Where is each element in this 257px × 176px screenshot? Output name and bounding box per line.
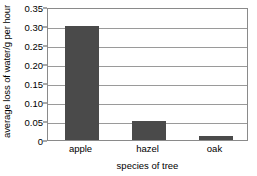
y-tick-label: 0.25 xyxy=(25,41,44,52)
y-axis-ticks: 0.350.300.250.200.150.100.050 xyxy=(14,0,47,145)
y-tick-label: 0.15 xyxy=(25,79,44,90)
bar-chart-figure: average loss of water/g per hour 0.350.3… xyxy=(0,0,257,176)
y-tick-label: 0.30 xyxy=(25,22,44,33)
y-tick-label: 0.05 xyxy=(25,117,44,128)
bar xyxy=(199,136,233,140)
y-axis-title-text: average loss of water/g per hour xyxy=(2,4,13,137)
y-tick-label: 0.20 xyxy=(25,60,44,71)
y-axis-title: average loss of water/g per hour xyxy=(0,0,14,142)
y-tick-label: 0.35 xyxy=(25,3,44,14)
y-tick-label: 0.10 xyxy=(25,98,44,109)
x-tick-label: apple xyxy=(69,143,92,154)
x-axis-title: species of tree xyxy=(47,160,248,171)
plot-area xyxy=(47,8,248,141)
bar xyxy=(65,26,99,140)
x-tick-label: hazel xyxy=(136,143,159,154)
x-tick-label: oak xyxy=(207,143,222,154)
bar xyxy=(132,121,166,140)
x-axis-ticks: applehazeloak xyxy=(47,143,248,159)
